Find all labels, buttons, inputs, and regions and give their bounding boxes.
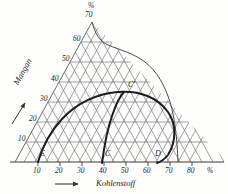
apex-tick-70: 70 — [85, 11, 93, 19]
mangan-tick-10: 10 — [18, 135, 26, 143]
apex-unit-label: % — [88, 2, 94, 10]
kohlenstoff-tick-80: 80 — [187, 167, 195, 175]
kohlenstoff-axis-label: Kohlenstoff — [96, 179, 135, 188]
point-label-D: D — [155, 150, 161, 158]
kohlenstoff-tick-70: 70 — [165, 167, 173, 175]
mangan-arrow-icon — [12, 103, 25, 124]
mangan-tick-30: 30 — [40, 95, 48, 103]
kohlenstoff-tick-50: 50 — [121, 167, 129, 175]
kohlenstoff-tick-60: 60 — [143, 167, 151, 175]
ternary-diagram-figure: % 70 10 20 30 40 50 60 Mangan 10 20 30 4… — [0, 0, 228, 194]
mangan-tick-40: 40 — [51, 75, 59, 83]
grid-diagonals-left — [0, 17, 228, 162]
mangan-tick-20: 20 — [29, 115, 37, 123]
grid-diagonals-right — [0, 17, 228, 162]
point-label-C: C — [105, 150, 110, 158]
kohlenstoff-tick-20: 20 — [55, 167, 63, 175]
kohlenstoff-tick-30: 30 — [77, 167, 85, 175]
triangular-grid — [0, 17, 228, 162]
mangan-tick-60: 60 — [73, 35, 81, 43]
point-label-E: E — [40, 150, 45, 158]
diagram-canvas — [0, 0, 228, 194]
point-label-C-prime: C' — [128, 81, 135, 89]
kohlenstoff-unit-label: % — [207, 167, 213, 175]
mangan-tick-50: 50 — [62, 55, 70, 63]
kohlenstoff-tick-10: 10 — [33, 167, 41, 175]
kohlenstoff-tick-40: 40 — [99, 167, 107, 175]
